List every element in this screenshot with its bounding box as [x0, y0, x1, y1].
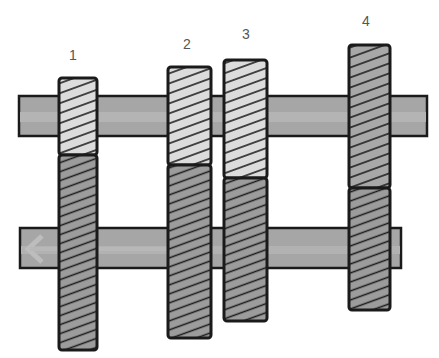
gearbox-diagram: 1 2 3 4: [0, 0, 439, 358]
gear-3: [224, 60, 267, 321]
gear-2: [168, 67, 211, 338]
gear-1: [59, 78, 97, 350]
gear-4: [349, 45, 390, 310]
gear-label-2: 2: [183, 36, 191, 52]
gear-label-1: 1: [69, 47, 77, 63]
gear-label-3: 3: [242, 26, 250, 42]
gear-label-4: 4: [362, 13, 370, 29]
